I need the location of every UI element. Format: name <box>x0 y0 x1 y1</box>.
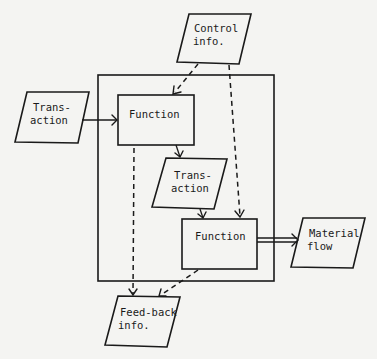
material-flow-label-line1: Material <box>309 227 360 239</box>
node-control-info: Control info. <box>177 14 251 64</box>
edge-function-1-to-feedback <box>129 148 137 295</box>
node-function-1: Function <box>118 95 194 145</box>
node-material-flow: Material flow <box>291 218 365 268</box>
edge-function-2-to-material-flow <box>257 234 298 246</box>
node-transaction-middle: Trans- action <box>152 158 227 209</box>
node-feedback-info: Feed-back info. <box>105 296 180 347</box>
edge-control-to-function-1 <box>173 64 198 94</box>
control-info-label-line1: Control <box>194 22 238 34</box>
flowchart-diagram: Control info. Trans- action Function Tra… <box>0 0 377 359</box>
edge-function-2-to-feedback <box>159 270 198 296</box>
node-function-2: Function <box>182 219 257 269</box>
edge-control-to-function-2 <box>229 65 244 217</box>
material-flow-label-line2: flow <box>307 240 333 252</box>
node-transaction-input: Trans- action <box>15 92 89 143</box>
edge-transaction-middle-to-function-2 <box>198 209 206 218</box>
transaction-middle-label-line2: action <box>171 182 209 194</box>
edge-function-1-to-transaction-middle <box>175 145 183 157</box>
function-1-label: Function <box>129 108 180 120</box>
control-info-label-line2: info. <box>193 35 225 47</box>
function-2-label: Function <box>195 230 246 242</box>
edge-transaction-to-function-1 <box>82 115 117 125</box>
transaction-input-label-line2: action <box>30 114 68 126</box>
transaction-middle-label-line1: Trans- <box>174 169 212 181</box>
transaction-input-label-line1: Trans- <box>33 101 71 113</box>
feedback-info-label-line1: Feed-back <box>120 306 178 318</box>
feedback-info-label-line2: info. <box>118 319 150 331</box>
